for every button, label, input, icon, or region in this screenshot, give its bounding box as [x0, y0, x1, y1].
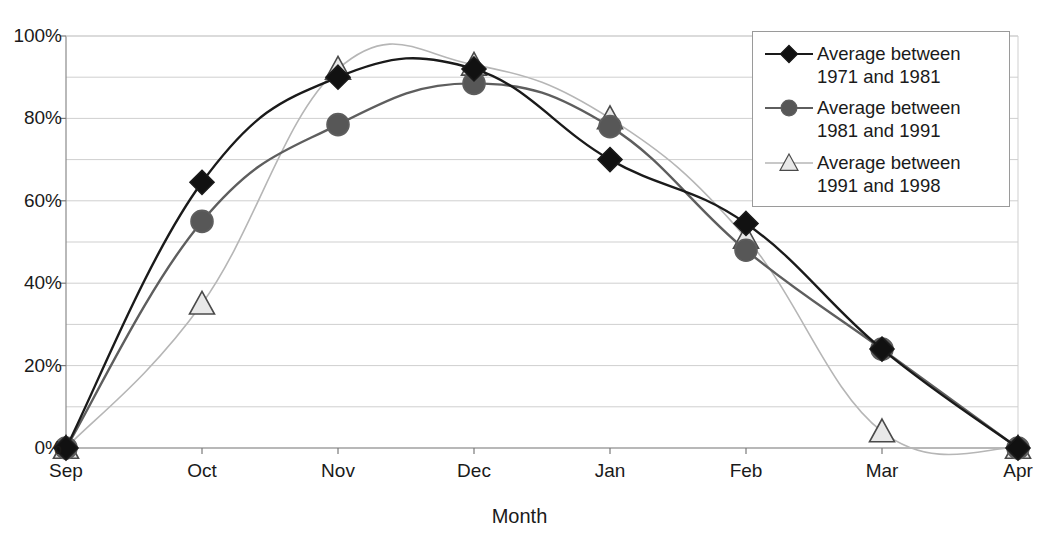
data-point-marker-circle — [781, 100, 797, 116]
x-axis-tick-label: Sep — [49, 460, 83, 482]
x-axis-tick-label: Dec — [457, 460, 491, 482]
x-axis-tick-label: Nov — [321, 460, 355, 482]
legend-marker-circle-icon — [761, 95, 817, 121]
legend-entry: Average between 1971 and 1981 — [761, 41, 999, 88]
legend-label: Average between 1971 and 1981 — [817, 41, 961, 88]
x-axis-tick-label: Mar — [866, 460, 899, 482]
legend-marker-diamond-icon — [761, 41, 817, 67]
x-axis-tick-label: Apr — [1003, 460, 1033, 482]
x-axis-tick-label: Oct — [187, 460, 217, 482]
legend-entry: Average between 1991 and 1998 — [761, 150, 999, 197]
legend-entry: Average between 1981 and 1991 — [761, 95, 999, 142]
data-point-marker-diamond — [780, 45, 797, 62]
x-axis-title: Month — [0, 505, 1039, 528]
chart-container: 0%20%40%60%80%100% SepOctNovDecJanFebMar… — [0, 0, 1039, 550]
x-axis-tick-label: Feb — [730, 460, 763, 482]
legend-marker-triangle-icon — [761, 150, 817, 176]
x-axis-tick-label: Jan — [595, 460, 626, 482]
data-point-marker-triangle — [780, 154, 798, 170]
legend-label: Average between 1981 and 1991 — [817, 95, 961, 142]
legend-label: Average between 1991 and 1998 — [817, 150, 961, 197]
chart-legend: Average between 1971 and 1981Average bet… — [752, 31, 1010, 207]
